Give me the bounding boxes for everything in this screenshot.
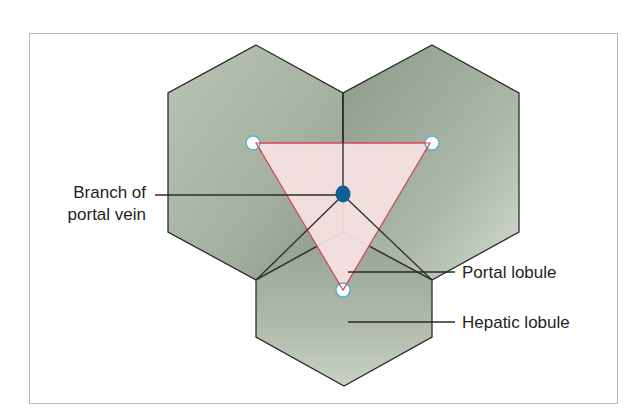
label-portal-lobule: Portal lobule	[462, 262, 557, 284]
label-branch-line1: Branch of	[36, 182, 146, 204]
label-branch-line2: portal vein	[36, 204, 146, 226]
label-hepatic-lobule: Hepatic lobule	[462, 312, 570, 334]
label-branch-of-portal-vein: Branch of portal vein	[36, 182, 146, 226]
portal-vein-branch-icon	[336, 186, 351, 203]
